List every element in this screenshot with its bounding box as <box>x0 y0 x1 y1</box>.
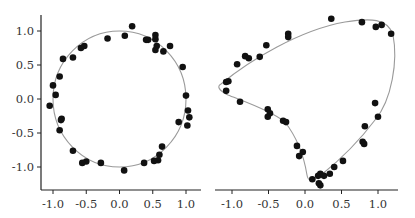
x-tick-label: 1.0 <box>369 197 387 211</box>
data-point <box>316 180 323 187</box>
data-point <box>328 15 335 22</box>
data-point <box>121 167 128 174</box>
data-point <box>184 122 191 129</box>
data-point <box>263 42 270 49</box>
data-point <box>185 107 192 114</box>
data-point <box>81 43 88 50</box>
data-point <box>70 54 77 61</box>
data-point <box>373 24 380 31</box>
data-point <box>388 30 395 37</box>
loop-curve <box>219 20 395 180</box>
figure: 1.00.50.0-0.5-1.0 -1.0-0.50.00.51.0 -1.0… <box>0 0 415 218</box>
data-point <box>98 160 105 167</box>
data-point <box>60 56 67 63</box>
data-point <box>186 114 193 121</box>
data-point <box>152 36 159 43</box>
data-point <box>223 79 230 86</box>
data-point <box>375 113 382 120</box>
data-point <box>331 164 338 171</box>
y-tick-label: 0.5 <box>16 58 34 72</box>
data-point <box>151 158 158 165</box>
data-point <box>122 32 129 39</box>
data-point <box>159 143 166 150</box>
data-point <box>179 64 186 71</box>
right-x-ticks: -1.0-0.50.00.51.0 <box>221 190 387 211</box>
data-point <box>50 82 57 89</box>
y-tick-label: -0.5 <box>12 126 34 140</box>
data-point <box>321 173 328 180</box>
data-point <box>283 119 290 126</box>
data-point <box>340 158 347 165</box>
data-point <box>296 153 303 160</box>
data-point <box>294 143 301 150</box>
data-point <box>372 100 379 107</box>
data-point <box>264 113 271 120</box>
x-tick-label: -1.0 <box>42 197 64 211</box>
data-point <box>104 35 111 42</box>
x-tick-label: -0.5 <box>75 197 97 211</box>
x-tick-label: 0.0 <box>110 197 128 211</box>
data-point <box>141 160 148 167</box>
data-point <box>70 147 77 154</box>
data-point <box>56 73 63 80</box>
data-point <box>378 22 385 29</box>
data-point <box>152 47 159 54</box>
right-panel-loop-fit: -1.0-0.50.00.51.0 <box>215 15 398 211</box>
data-point <box>256 54 263 61</box>
right-data-points <box>223 15 395 188</box>
data-point <box>245 55 252 62</box>
data-point <box>175 119 182 126</box>
data-point <box>361 141 368 148</box>
x-tick-label: -1.0 <box>221 197 243 211</box>
left-panel-circle-fit: 1.00.50.0-0.5-1.0 -1.0-0.50.00.51.0 <box>12 15 201 211</box>
x-tick-label: 1.0 <box>177 197 195 211</box>
data-point <box>79 160 86 167</box>
data-point <box>234 61 241 68</box>
data-point <box>145 37 152 44</box>
data-point <box>327 171 334 178</box>
left-x-ticks: -1.0-0.50.00.51.0 <box>42 190 195 211</box>
x-tick-label: 0.5 <box>144 197 162 211</box>
data-point <box>58 117 65 124</box>
data-point <box>285 34 292 41</box>
data-point <box>309 176 316 183</box>
x-tick-label: 0.5 <box>332 197 350 211</box>
data-point <box>237 98 244 105</box>
x-tick-label: -0.5 <box>257 197 279 211</box>
data-point <box>52 92 59 99</box>
left-data-points <box>46 23 192 174</box>
data-point <box>46 103 53 110</box>
data-point <box>160 48 167 55</box>
data-point <box>183 92 190 99</box>
x-tick-label: 0.0 <box>296 197 314 211</box>
y-tick-label: 1.0 <box>16 24 34 38</box>
data-point <box>56 127 63 134</box>
data-point <box>223 88 230 95</box>
data-point <box>129 23 136 30</box>
left-y-ticks: 1.00.50.0-0.5-1.0 <box>12 24 41 174</box>
data-point <box>359 19 366 26</box>
data-point <box>362 123 369 130</box>
data-point <box>167 43 174 50</box>
y-tick-label: -1.0 <box>12 160 34 174</box>
chart-canvas: 1.00.50.0-0.5-1.0 -1.0-0.50.00.51.0 -1.0… <box>0 0 415 218</box>
y-tick-label: 0.0 <box>16 92 34 106</box>
